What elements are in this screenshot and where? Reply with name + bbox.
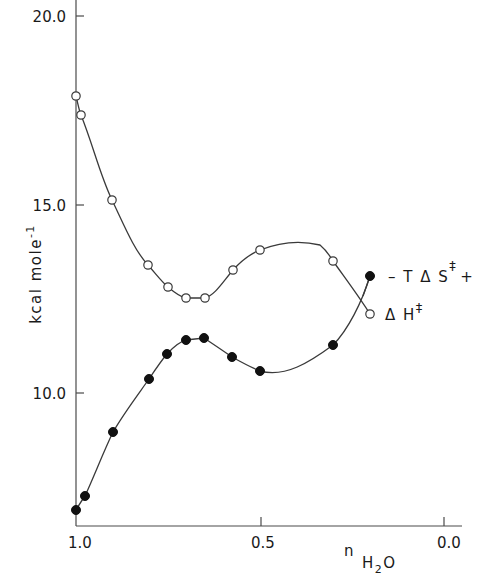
legend-entropy-term: – T Δ S‡+ [388,258,474,286]
data-point-open [366,310,374,318]
y-axis-title-sup: -1 [24,224,37,238]
chart: 20.0 15.0 10.0 1.0 0.5 0.0 kcal mole-1 n… [0,0,483,575]
data-point-open [182,294,190,302]
legend-entropy-term-dagger: ‡ [449,258,457,273]
data-point-filled [72,506,81,515]
legend-entropy-term-main: – T Δ S [388,268,449,286]
legend-delta-h-dagger: ‡ [416,300,424,315]
svg-text:– T Δ S‡+: – T Δ S‡+ [388,258,474,286]
x-tick-label-0.5: 0.5 [251,534,275,552]
data-point-filled [81,492,90,501]
data-point-filled [256,367,265,376]
x-axis-title-sub-2: 2 [375,563,384,575]
y-tick-label-15: 15.0 [33,197,66,215]
delta-h-markers [72,92,374,318]
data-point-filled [228,353,237,362]
x-axis-title-main: n [344,542,355,560]
x-tick-label-1.0: 1.0 [68,534,92,552]
data-point-open [229,266,237,274]
y-axis-title-main: kcal mole [27,238,45,324]
x-tick-label-0.0: 0.0 [437,534,461,552]
data-point-open [144,261,152,269]
legend-entropy-term-plus: + [460,268,474,286]
entropy-term-markers [72,272,375,515]
legend-delta-h-main: Δ H [385,306,416,324]
y-tick-label-10: 10.0 [33,385,66,403]
x-axis-title: n H2O [344,542,397,575]
data-point-open [77,111,85,119]
y-tick-label-20: 20.0 [33,8,66,26]
data-point-open [164,283,172,291]
data-point-filled [145,375,154,384]
data-point-filled [366,272,375,281]
svg-text:H2O: H2O [362,554,397,575]
svg-text:Δ H‡: Δ H‡ [385,300,424,324]
svg-text:kcal mole-1: kcal mole-1 [24,224,45,324]
data-point-filled [182,336,191,345]
legend-delta-h: Δ H‡ [385,300,424,324]
delta-h-curve [76,96,370,314]
data-point-open [72,92,80,100]
data-point-filled [163,350,172,359]
data-point-open [329,257,337,265]
data-point-open [108,196,116,204]
data-point-filled [109,428,118,437]
data-point-filled [200,334,209,343]
data-point-open [201,294,209,302]
x-axis: 1.0 0.5 0.0 [68,517,462,552]
data-point-open [256,246,264,254]
svg-text:n: n [344,542,355,560]
data-point-filled [329,341,338,350]
x-axis-title-sub-O: O [383,554,396,572]
x-axis-title-sub-H: H [362,554,375,572]
entropy-term-curve [76,276,370,510]
y-axis-title: kcal mole-1 [24,224,45,324]
